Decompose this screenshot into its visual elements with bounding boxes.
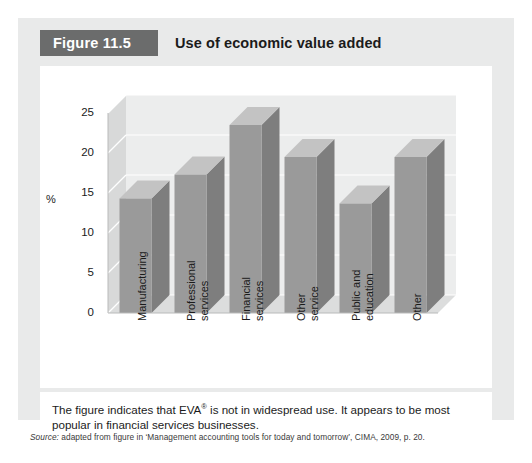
y-axis-tick-label: 25 <box>60 106 94 118</box>
y-axis-tick-label: 20 <box>60 146 94 158</box>
figure-source: Source: adapted from figure in ‘Manageme… <box>30 432 425 442</box>
x-axis-category-label: Financialservices <box>240 277 265 321</box>
x-axis-category-label: Professionalservices <box>185 260 210 321</box>
bar-chart-3d: 0510152025%ManufacturingProfessionalserv… <box>40 66 492 388</box>
bar <box>395 139 445 313</box>
x-axis-category-line: Public and <box>350 270 363 321</box>
y-axis-title: % <box>46 193 56 205</box>
figure-page: Figure 11.5 Use of economic value added … <box>0 0 532 463</box>
figure-caption: The figure indicates that EVA® is not in… <box>40 392 492 430</box>
chart-svg <box>40 66 492 388</box>
x-axis-category-line: services <box>197 260 210 321</box>
x-axis-category-label: Public andeducation <box>350 270 375 321</box>
x-axis-category-line: Other <box>411 293 424 321</box>
y-axis-tick-label: 15 <box>60 186 94 198</box>
x-axis-category-line: services <box>252 277 265 321</box>
x-axis-category-label: Manufacturing <box>136 251 149 321</box>
x-axis-category-line: education <box>362 270 375 321</box>
bar-front-face <box>395 157 427 313</box>
source-prefix: Source: <box>30 432 59 442</box>
x-axis-category-line: service <box>307 286 320 321</box>
x-axis-category-line: Manufacturing <box>136 251 149 321</box>
y-axis-tick-label: 0 <box>60 306 94 318</box>
figure-title: Use of economic value added <box>175 30 382 56</box>
x-axis-category-line: Professional <box>185 260 198 321</box>
figure-number-tab: Figure 11.5 <box>40 30 158 56</box>
source-text: adapted from figure in ‘Management accou… <box>59 432 425 442</box>
chart-panel: 0510152025%ManufacturingProfessionalserv… <box>40 66 492 388</box>
figure-header: Figure 11.5 Use of economic value added <box>18 30 514 56</box>
bar-side-face <box>427 139 445 313</box>
caption-text-before: The figure indicates that EVA <box>52 403 201 416</box>
bar-side-face <box>152 181 170 313</box>
figure-card: Figure 11.5 Use of economic value added … <box>18 18 514 420</box>
y-axis-tick-label: 5 <box>60 266 94 278</box>
y-axis-tick-label: 10 <box>60 226 94 238</box>
x-axis-category-label: Otherservice <box>295 286 320 321</box>
x-axis-category-label: Other <box>411 293 424 321</box>
x-axis-category-line: Financial <box>240 277 253 321</box>
x-axis-category-line: Other <box>295 286 308 321</box>
